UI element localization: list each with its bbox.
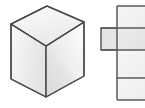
net-square-third [117,50,145,78]
net-square-bottom [117,78,145,100]
net-square-top [117,6,145,28]
figure-canvas [0,0,145,108]
isometric-cube [11,6,84,97]
figure-svg [0,0,145,108]
net-square-second [117,28,145,50]
cube-net [101,6,145,100]
net-square-side [101,28,117,50]
